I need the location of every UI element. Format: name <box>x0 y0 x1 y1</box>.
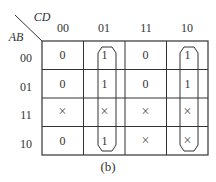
row-header: 11 <box>14 108 38 122</box>
kmap-cell: 1 <box>84 41 125 69</box>
kmap-cell-dontcare: × <box>42 98 83 126</box>
kmap-cell: 0 <box>42 41 83 69</box>
kmap-cell: 1 <box>84 127 125 155</box>
row-header: 10 <box>14 137 38 151</box>
row-header: 00 <box>14 51 38 65</box>
kmap-cell: 1 <box>167 41 208 69</box>
kmap-cell-dontcare: × <box>84 98 125 126</box>
kmap-cell-dontcare: × <box>167 98 208 126</box>
kmap-cell: 1 <box>84 70 125 98</box>
kmap-cell: 0 <box>42 127 83 155</box>
col-header: 11 <box>133 21 159 35</box>
kmap-cell-dontcare: × <box>167 127 208 155</box>
col-header: 10 <box>174 21 200 35</box>
kmap-cell-dontcare: × <box>125 98 166 126</box>
row-var-label: AB <box>4 30 28 44</box>
col-header: 00 <box>50 21 76 35</box>
row-header: 01 <box>14 80 38 94</box>
kmap-cell: 0 <box>125 70 166 98</box>
kmap-cell: 1 <box>167 70 208 98</box>
col-header: 01 <box>91 21 117 35</box>
kmap-cell-dontcare: × <box>125 127 166 155</box>
kmap-cell: 0 <box>42 70 83 98</box>
figure-caption: (b) <box>88 160 128 174</box>
kmap-cell: 0 <box>125 41 166 69</box>
